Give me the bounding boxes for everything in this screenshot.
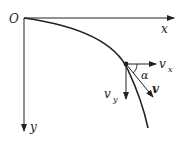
v-label: v bbox=[152, 82, 160, 96]
y-axis-label: y bbox=[29, 120, 37, 134]
vy-subscript: y bbox=[112, 95, 118, 104]
trajectory-curve bbox=[24, 18, 148, 128]
vx-subscript: x bbox=[168, 65, 173, 74]
x-axis-label: x bbox=[161, 22, 168, 36]
angle-label: α bbox=[141, 69, 149, 82]
angle-arc bbox=[133, 64, 137, 73]
vx-label: v bbox=[159, 57, 166, 71]
v-arrow bbox=[126, 64, 153, 97]
origin-label: O bbox=[9, 12, 19, 26]
vy-label: v bbox=[104, 87, 111, 101]
projectile-diagram: O x y v x v y v α bbox=[0, 0, 184, 141]
